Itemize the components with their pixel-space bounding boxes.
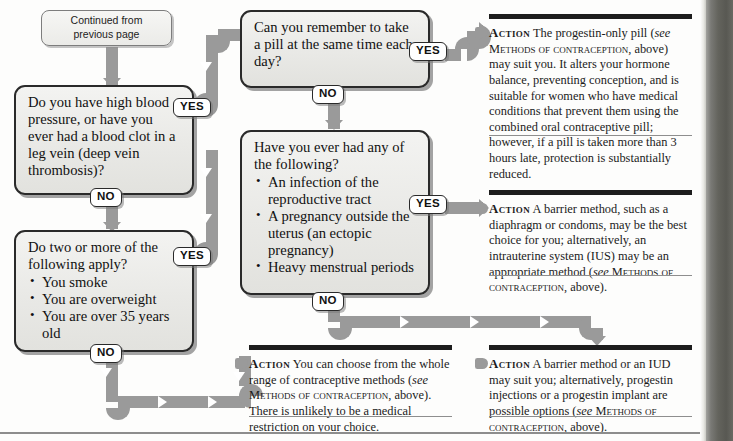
action-body: Action A barrier method, such as a diaph…	[489, 201, 692, 296]
page-edge-strip	[706, 0, 733, 441]
question-blood-pressure-text: Do you have high blood pressure, or have…	[28, 94, 181, 179]
chevron-q3-no-4	[233, 372, 245, 381]
action-pointer-blob	[235, 358, 248, 369]
action-rule-bottom	[489, 275, 692, 277]
action-progestin-only-pill: Action The progestin-only pill (see Meth…	[489, 14, 692, 136]
chevron-q4-no-1	[400, 316, 409, 328]
list-item: You are over 35 years old	[30, 308, 181, 342]
action-label: Action	[489, 202, 530, 216]
tag-q1-yes[interactable]: YES	[173, 98, 211, 117]
connector-q1-yes-into-q2	[218, 29, 240, 41]
action-text: The progestin-only pill (see Methods of …	[489, 26, 679, 181]
question-risk-factors-box[interactable]: Do two or more of the following apply? Y…	[14, 230, 194, 352]
tag-q3-no[interactable]: NO	[90, 344, 122, 363]
question-risk-factors-lead: Do two or more of the following apply?	[28, 239, 181, 273]
action-barrier-method-ius: Action A barrier method, such as a diaph…	[489, 190, 692, 276]
action-rule-top	[249, 345, 452, 350]
action-label: Action	[489, 26, 530, 40]
question-remember-pill-box[interactable]: Can you remember to take a pill at the s…	[240, 10, 430, 88]
action-body: Action The progestin-only pill (see Meth…	[489, 25, 692, 182]
question-history-list: An infection of the reproductive tract A…	[254, 174, 417, 276]
action-label: Action	[489, 357, 530, 371]
tag-q4-no[interactable]: NO	[312, 292, 344, 311]
connector-q4-no-h	[340, 316, 591, 328]
arrow-q2-no	[325, 120, 343, 130]
chevron-q3-yes-1	[200, 214, 212, 223]
action-rule-bottom	[249, 416, 452, 418]
action-rule-top	[489, 190, 692, 195]
action-rule-top	[489, 345, 692, 350]
tag-q2-no[interactable]: NO	[312, 85, 344, 104]
action-rule-bottom	[489, 416, 692, 418]
chevron-q1-yes	[200, 62, 212, 71]
list-item: A pregnancy outside the uterus (an ectop…	[256, 208, 417, 259]
action-rule-bottom	[489, 135, 692, 137]
action-barrier-or-iud: Action A barrier method or an IUD may su…	[489, 345, 692, 417]
action-body: Action You can choose from the whole ran…	[249, 356, 452, 435]
flowchart-page: Continued from previous page Do you have…	[0, 0, 733, 441]
action-pointer-blob	[475, 203, 488, 214]
question-remember-pill-text: Can you remember to take a pill at the s…	[254, 19, 417, 70]
action-pointer-blob	[475, 27, 488, 38]
chevron-q3-no-2	[158, 396, 167, 408]
question-history-lead: Have you ever had any of the following?	[254, 139, 417, 173]
page-footer-rule	[0, 432, 700, 434]
action-rule-top	[489, 14, 692, 19]
chevron-q3-no-3	[208, 396, 217, 408]
action-body: Action A barrier method or an IUD may su…	[489, 356, 692, 435]
list-item: An infection of the reproductive tract	[256, 174, 417, 208]
question-risk-factors-list: You smoke You are overweight You are ove…	[28, 274, 181, 342]
tag-q3-yes[interactable]: YES	[173, 247, 211, 266]
connector-q3-yes-v	[206, 150, 218, 254]
connector-q3-no-h	[118, 396, 245, 408]
continued-label: Continued from previous page	[71, 14, 143, 41]
list-item: You smoke	[30, 274, 181, 291]
tag-q1-no[interactable]: NO	[90, 188, 122, 207]
chevron-q3-no-1	[100, 368, 112, 377]
question-history-box[interactable]: Have you ever had any of the following? …	[240, 130, 430, 295]
continued-from-previous-page-box: Continued from previous page	[41, 10, 172, 46]
chevron-q4-no-2	[470, 316, 479, 328]
question-blood-pressure-box[interactable]: Do you have high blood pressure, or have…	[14, 85, 194, 195]
action-label: Action	[249, 357, 290, 371]
list-item: You are overweight	[30, 291, 181, 308]
chevron-q4-no-3	[540, 316, 549, 328]
chevron-q3-yes-2	[200, 168, 212, 177]
tag-q4-yes[interactable]: YES	[409, 195, 447, 214]
tag-q2-yes[interactable]: YES	[409, 42, 447, 61]
action-pointer-blob	[475, 358, 488, 369]
list-item: Heavy menstrual periods	[256, 259, 417, 276]
action-whole-range: Action You can choose from the whole ran…	[249, 345, 452, 417]
